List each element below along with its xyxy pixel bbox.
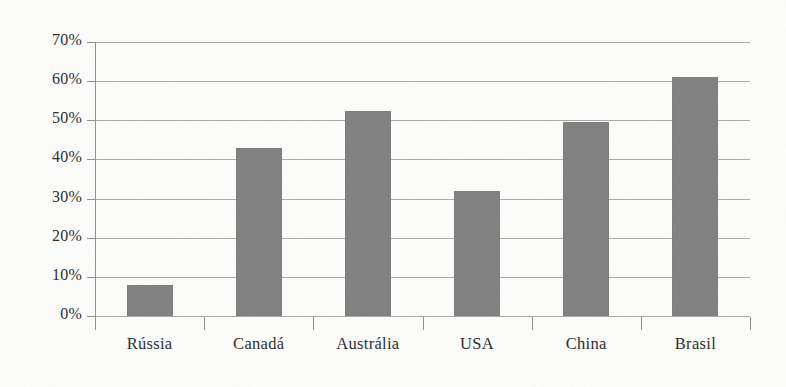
y-axis-tick [87, 81, 96, 82]
x-axis-tick [532, 317, 533, 330]
x-axis-category-label: China [532, 334, 641, 354]
bar [236, 148, 282, 316]
bar [127, 285, 173, 316]
y-axis-tick [87, 277, 96, 278]
bar [345, 111, 391, 317]
x-axis-category-label: Austrália [313, 334, 422, 354]
y-axis-line [95, 42, 96, 325]
y-axis-tick [87, 159, 96, 160]
x-axis-tick [641, 317, 642, 330]
gridline [95, 238, 750, 239]
x-axis-tick [313, 317, 314, 330]
x-axis-tick [750, 317, 751, 330]
y-axis-tick [87, 42, 96, 43]
y-axis-tick [87, 199, 96, 200]
x-axis-tick [423, 317, 424, 330]
plot-area [95, 42, 750, 316]
gridline [95, 199, 750, 200]
x-axis-tick [204, 317, 205, 330]
y-axis-tick-label: 50% [20, 109, 82, 127]
y-axis-tick-label: 70% [20, 31, 82, 49]
gridline [95, 81, 750, 82]
y-axis-tick-label: 40% [20, 148, 82, 166]
gridline [95, 277, 750, 278]
bar [454, 191, 500, 316]
y-axis-tick-label: 20% [20, 227, 82, 245]
y-axis-tick [87, 120, 96, 121]
y-axis-labels: 0%10%20%30%40%50%60%70% [14, 0, 82, 387]
gridline [95, 42, 750, 43]
x-axis-tick [95, 317, 96, 330]
gridline [95, 120, 750, 121]
y-axis-tick-label: 0% [20, 305, 82, 323]
bar [672, 77, 718, 316]
bar [563, 122, 609, 316]
x-axis-category-label: Rússia [95, 334, 204, 354]
y-axis-tick-label: 10% [20, 266, 82, 284]
x-axis-category-label: Canadá [204, 334, 313, 354]
y-axis-tick-label: 30% [20, 188, 82, 206]
x-axis-category-label: Brasil [641, 334, 750, 354]
y-axis-tick [87, 238, 96, 239]
x-axis-category-label: USA [423, 334, 532, 354]
bar-chart: 0%10%20%30%40%50%60%70% RússiaCanadáAust… [0, 0, 786, 387]
gridline [95, 159, 750, 160]
y-axis-tick-label: 60% [20, 70, 82, 88]
